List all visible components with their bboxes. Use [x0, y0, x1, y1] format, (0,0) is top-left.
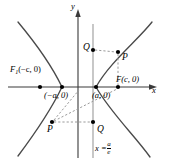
vertex-right-label: (a, 0) [92, 90, 110, 100]
dot-q-upper [91, 48, 95, 52]
p-lower-label: P [47, 124, 53, 134]
dot-vertex-left [60, 85, 64, 89]
dashed-q-upper-to-p-upper [95, 50, 116, 52]
focus-right-label: F(c, 0) [116, 74, 139, 84]
dot-vertex-right [94, 85, 98, 89]
focus-left-coordinates: (−c, 0) [18, 64, 41, 74]
q-lower-label: Q [97, 124, 104, 134]
q-upper-label: Q [83, 42, 90, 52]
p-upper-label: P [122, 52, 128, 62]
directrix-equation-prefix: x = [95, 143, 107, 153]
dot-p-upper [116, 50, 120, 54]
dot-q-lower [91, 120, 95, 124]
directrix-denominator: e [107, 149, 112, 156]
dot-focus-right [116, 85, 120, 89]
vertex-left-label: (−a, 0) [44, 90, 68, 100]
dot-focus-left [38, 85, 42, 89]
directrix-equation-label: x =ae [95, 141, 111, 156]
x-axis-label: x [152, 85, 156, 95]
diagram-canvas [0, 0, 170, 165]
y-axis-label: y [71, 1, 75, 11]
hyperbola-diagram: y x F1(−c, 0) F(c, 0) (−a, 0) (a, 0) Q P… [0, 0, 170, 165]
y-axis-arrowhead [75, 9, 80, 17]
directrix-fraction: ae [107, 141, 112, 156]
focus-left-label: F1(−c, 0) [10, 64, 41, 75]
